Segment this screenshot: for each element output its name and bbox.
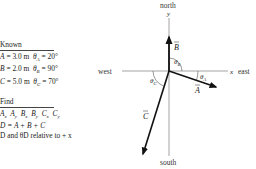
theta-b-label: θB [174, 58, 180, 67]
south-label: south [160, 158, 177, 167]
y-axis-label: y [166, 10, 171, 18]
theta-a-arc [196, 71, 198, 81]
vector-c-label: C [143, 112, 149, 121]
theta-a-label: θA [200, 73, 206, 82]
vector-a-arrow [169, 71, 216, 87]
west-label: west [98, 67, 113, 76]
theta-c-label: θC [150, 77, 157, 86]
north-label: north [160, 1, 176, 10]
vector-b-label: B [174, 43, 179, 52]
east-label: east [238, 67, 251, 76]
vector-a-label: A [194, 86, 200, 95]
x-axis-label: x [229, 68, 234, 76]
vector-diagram: north south east west x y B A C θB θA θC [0, 0, 256, 169]
